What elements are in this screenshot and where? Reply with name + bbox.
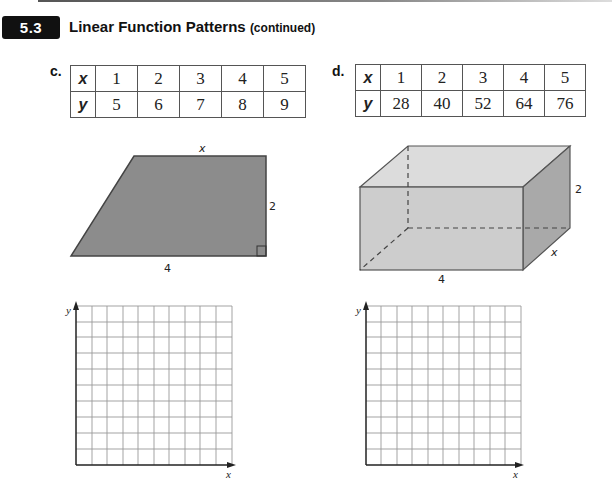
grid-lines bbox=[76, 306, 232, 465]
y-axis-label: y bbox=[65, 304, 71, 316]
y-axis-label: y bbox=[355, 304, 361, 316]
graph-d[interactable]: y x bbox=[350, 295, 550, 485]
prism-depth-label: x bbox=[550, 246, 558, 259]
x-axis-label: x bbox=[225, 468, 231, 480]
grid-lines bbox=[366, 306, 521, 465]
prism-height-label: 2 bbox=[575, 183, 582, 196]
y-axis-arrow-icon bbox=[363, 301, 369, 310]
x-axis-label: x bbox=[512, 468, 518, 480]
y-axis-arrow-icon bbox=[73, 301, 79, 310]
graph-c[interactable]: y x bbox=[50, 295, 250, 485]
prism-length-label: 4 bbox=[438, 273, 445, 286]
